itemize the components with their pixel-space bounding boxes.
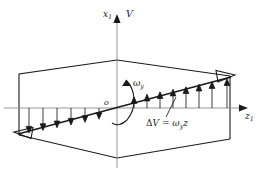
velocity-arrow-down — [68, 108, 74, 125]
velocity-arrow-up — [209, 82, 215, 108]
origin-label: o — [104, 99, 109, 107]
horizontal-axis-label-z1: z1 — [245, 112, 254, 122]
vertical-axis-label-x1: x1 — [103, 10, 112, 20]
rotation-label-omega-y: ωy — [133, 79, 144, 89]
equation-label: ΔV = ωyz — [146, 119, 188, 129]
curved-rotation-arrow-icon — [112, 80, 134, 125]
velocity-arrow-up — [157, 92, 163, 108]
velocity-arrow-up-group — [131, 79, 230, 108]
velocity-arrow-up — [144, 94, 150, 108]
curved-rotation-arrowhead — [122, 80, 131, 86]
leader-line — [166, 97, 176, 117]
vertical-axis-label-V: V — [126, 9, 133, 19]
axis-arrow-up-icon — [113, 14, 120, 23]
parallelogram-plane-upper-face — [19, 60, 230, 103]
velocity-arrow-up — [196, 84, 202, 108]
diagram-canvas — [0, 0, 263, 175]
figure-container: x1 V z1 o ωy ΔV = ωyz — [0, 0, 263, 175]
parallelogram-plane-lower-face — [19, 135, 230, 158]
velocity-arrow-up — [224, 79, 230, 108]
